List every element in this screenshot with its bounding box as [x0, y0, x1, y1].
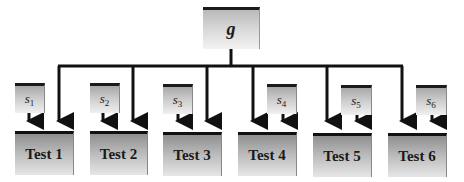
- test-box-1: Test 1: [15, 131, 74, 175]
- specific-factor-label-5: s5: [341, 93, 371, 110]
- specific-factor-box-1: s1: [15, 83, 45, 113]
- specific-factor-label-3: s3: [163, 92, 192, 109]
- test-box-3: Test 3: [163, 132, 222, 176]
- specific-factor-box-6: s6: [416, 85, 447, 115]
- specific-factor-label-6: s6: [416, 93, 446, 110]
- test-label-4: Test 4: [248, 147, 285, 164]
- specific-factor-box-3: s3: [163, 84, 193, 114]
- test-label-6: Test 6: [398, 148, 435, 165]
- test-box-2: Test 2: [90, 131, 148, 175]
- test-box-4: Test 4: [238, 132, 297, 176]
- general-factor-label: g: [203, 19, 259, 40]
- test-label-1: Test 1: [25, 146, 62, 163]
- general-factor-box: g: [203, 7, 260, 49]
- test-box-6: Test 6: [388, 133, 447, 177]
- specific-factor-label-4: s4: [267, 92, 296, 109]
- test-label-3: Test 3: [173, 147, 210, 164]
- test-label-2: Test 2: [100, 146, 137, 163]
- specific-factor-label-2: s2: [90, 91, 119, 108]
- specific-factor-box-2: s2: [90, 83, 120, 113]
- specific-factor-box-4: s4: [267, 84, 297, 114]
- test-label-5: Test 5: [323, 148, 360, 165]
- test-box-5: Test 5: [313, 133, 372, 177]
- specific-factor-box-5: s5: [341, 85, 372, 115]
- specific-factor-label-1: s1: [15, 91, 44, 108]
